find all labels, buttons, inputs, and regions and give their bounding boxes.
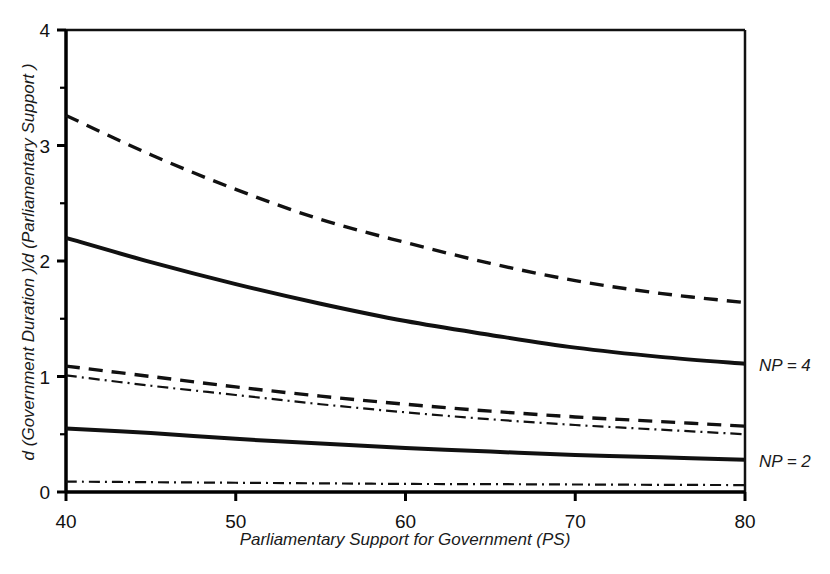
chart-figure: 01234 4050607080 NP = 4NP = 2 Parliament… (0, 0, 830, 574)
y-tick-label: 2 (39, 251, 50, 272)
y-tick-label: 1 (39, 367, 50, 388)
x-tick-label: 80 (734, 511, 755, 532)
x-tick-label: 50 (225, 511, 246, 532)
line-chart: 01234 4050607080 NP = 4NP = 2 Parliament… (0, 0, 830, 574)
y-tick-label: 3 (39, 136, 50, 157)
y-tick-label: 4 (39, 20, 50, 41)
chart-background (0, 0, 830, 574)
series-annotation-label: NP = 2 (759, 452, 811, 471)
y-axis-label: d (Government Duration )/d (Parliamentar… (19, 64, 38, 461)
x-axis-label: Parliamentary Support for Government (PS… (240, 530, 571, 549)
x-tick-label: 70 (565, 511, 586, 532)
y-tick-label: 0 (39, 482, 50, 503)
x-tick-label: 60 (395, 511, 416, 532)
x-tick-label: 40 (55, 511, 76, 532)
series-annotation-label: NP = 4 (759, 356, 811, 375)
